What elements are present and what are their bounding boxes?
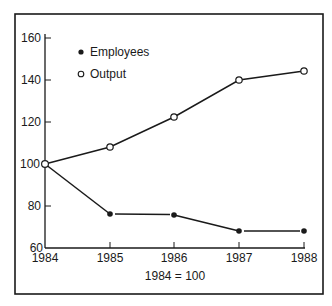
- legend-output-label: Output: [90, 67, 127, 81]
- origin-point: [42, 161, 49, 168]
- x-tick-label: 1985: [97, 251, 124, 265]
- legend: Employees Output: [78, 45, 149, 81]
- x-tick-label: 1984: [32, 251, 59, 265]
- y-ticks: 160 140 120 100 80 60: [20, 31, 51, 255]
- series-output: [45, 68, 307, 164]
- y-tick-label: 160: [21, 31, 41, 45]
- filled-circle-icon: [78, 49, 83, 54]
- y-tick-label: 120: [21, 115, 41, 129]
- x-tick-label: 1987: [226, 251, 253, 265]
- x-tick-label: 1988: [291, 251, 318, 265]
- employees-point: [171, 212, 177, 218]
- employees-point: [236, 228, 242, 234]
- base-year-note: 1984 = 100: [145, 269, 206, 283]
- output-point: [301, 68, 307, 74]
- index-line-chart: 160 140 120 100 80 60 1984 1985 1986 198…: [0, 0, 332, 306]
- x-ticks: 1984 1985 1986 1987 1988: [32, 242, 318, 265]
- y-tick-label: 80: [28, 199, 42, 213]
- open-circle-icon: [78, 71, 84, 77]
- legend-employees-label: Employees: [90, 45, 149, 59]
- output-point: [107, 144, 113, 150]
- output-point: [171, 114, 177, 120]
- x-tick-label: 1986: [161, 251, 188, 265]
- y-tick-label: 100: [20, 157, 40, 171]
- employees-point: [301, 228, 307, 234]
- series-employees: [45, 164, 307, 234]
- employees-point: [107, 211, 113, 217]
- y-tick-label: 140: [21, 73, 41, 87]
- output-point: [236, 77, 242, 83]
